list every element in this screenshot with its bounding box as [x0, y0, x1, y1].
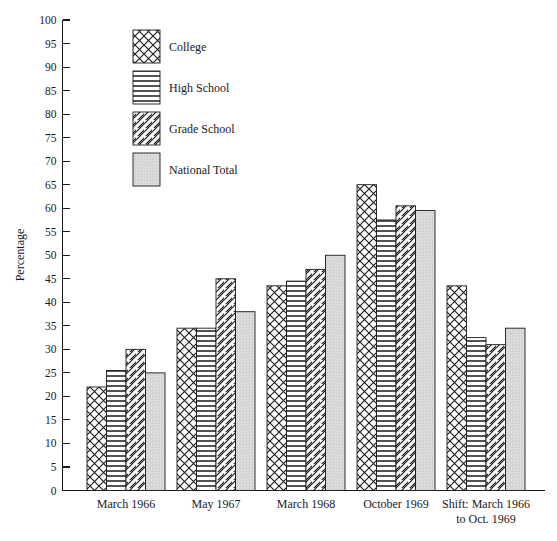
bar-grade-school-4 [486, 345, 506, 491]
bar-high-school-0 [107, 371, 127, 491]
y-axis-title: Percentage [13, 229, 27, 282]
legend-swatch-college [133, 30, 160, 63]
legend-label-grade-school: Grade School [169, 122, 235, 136]
y-tick-label-95: 95 [45, 38, 57, 50]
bar-national-total-0 [146, 373, 166, 491]
bar-national-total-3 [416, 211, 436, 491]
y-tick-label-0: 0 [51, 485, 57, 497]
bar-grade-school-0 [126, 349, 146, 490]
bar-grade-school-3 [396, 206, 416, 491]
bar-college-4 [447, 286, 467, 491]
bar-high-school-3 [377, 220, 397, 491]
y-tick-label-55: 55 [45, 226, 57, 238]
y-tick-label-40: 40 [45, 296, 57, 308]
legend-swatch-grade-school [133, 112, 160, 145]
chart-container: 0510152025303540455055606570758085909510… [0, 0, 557, 541]
y-tick-label-25: 25 [45, 367, 57, 379]
bar-national-total-4 [506, 328, 526, 490]
bars-layer [87, 185, 525, 491]
y-tick-label-80: 80 [45, 108, 57, 120]
y-tick-label-20: 20 [45, 390, 57, 402]
x-axis-labels: March 1966May 1967March 1968October 1969… [97, 497, 530, 526]
y-tick-label-15: 15 [45, 414, 57, 426]
y-tick-label-45: 45 [45, 273, 57, 285]
bar-grade-school-1 [216, 279, 236, 491]
y-tick-label-90: 90 [45, 61, 57, 73]
y-tick-label-10: 10 [45, 437, 57, 449]
y-tick-label-85: 85 [45, 85, 57, 97]
y-tick-label-75: 75 [45, 132, 57, 144]
y-axis-tick-labels: 0510152025303540455055606570758085909510… [39, 14, 57, 497]
y-tick-label-60: 60 [45, 202, 57, 214]
bar-grade-school-2 [306, 269, 326, 490]
bar-college-3 [357, 185, 377, 491]
bar-high-school-4 [467, 338, 487, 491]
y-tick-label-70: 70 [45, 155, 57, 167]
bar-national-total-1 [236, 312, 256, 491]
bar-college-0 [87, 387, 107, 491]
x-axis-label-0: March 1966 [97, 497, 155, 511]
y-tick-label-35: 35 [45, 320, 57, 332]
x-axis-label-4: to Oct. 1969 [456, 512, 516, 526]
y-tick-label-65: 65 [45, 179, 57, 191]
x-axis-label-2: March 1968 [277, 497, 335, 511]
legend-swatch-national-total [133, 153, 160, 186]
bar-national-total-2 [326, 255, 346, 490]
bar-chart: 0510152025303540455055606570758085909510… [0, 0, 557, 541]
legend-label-high-school: High School [169, 81, 230, 95]
y-tick-label-30: 30 [45, 343, 57, 355]
y-axis-ticks [63, 20, 70, 491]
y-tick-label-5: 5 [51, 461, 57, 473]
bar-college-1 [177, 328, 197, 490]
x-axis-label-1: May 1967 [192, 497, 241, 511]
x-axis-label-3: October 1969 [363, 497, 429, 511]
bar-college-2 [267, 286, 287, 491]
y-tick-label-100: 100 [39, 14, 57, 26]
bar-high-school-2 [287, 281, 307, 490]
legend-label-college: College [169, 40, 206, 54]
bar-high-school-1 [197, 328, 217, 490]
legend-swatch-high-school [133, 71, 160, 104]
legend-label-national-total: National Total [169, 163, 238, 177]
x-axis-label-4: Shift: March 1966 [442, 497, 530, 511]
y-tick-label-50: 50 [45, 249, 57, 261]
legend: CollegeHigh SchoolGrade SchoolNational T… [133, 30, 238, 186]
